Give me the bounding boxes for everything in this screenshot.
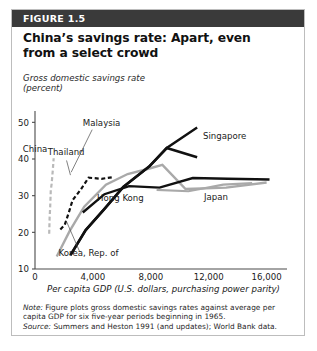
y-tick-label: 30 <box>18 191 29 201</box>
note-label: Note: <box>23 303 43 312</box>
y-tick-label: 20 <box>18 228 29 238</box>
source-label: Source: <box>23 322 51 331</box>
x-tick-label: 8,000 <box>139 272 164 282</box>
x-axis-caption: Per capita GDP (U.S. dollars, purchasing… <box>47 284 280 294</box>
note-text: Figure plots gross domestic savings rate… <box>23 303 275 321</box>
series-label-malaysia: Malaysia <box>83 118 121 128</box>
series-label-hong-kong: Hong Kong <box>97 193 144 203</box>
series-line-china <box>49 158 53 234</box>
line-chart-svg: ChinaThailandMalaysiaSingaporeHong KongJ… <box>12 10 306 310</box>
y-tick-label: 10 <box>18 264 29 274</box>
series-label-singapore: Singapore <box>203 131 246 141</box>
x-tick-label: 4,000 <box>81 272 106 282</box>
source-text: Summers and Heston 1991 (and updates); W… <box>51 322 277 331</box>
series-label-china: China <box>23 144 48 154</box>
y-tick-label: 40 <box>18 154 29 164</box>
figure-card: FIGURE 1.5 China’s savings rate: Apart, … <box>11 9 305 336</box>
source-line: Source: Summers and Heston 1991 (and upd… <box>23 322 295 331</box>
x-tick-label: 0 <box>32 272 37 282</box>
x-tick-label: 16,000 <box>252 272 282 282</box>
series-label-japan: Japan <box>203 192 228 202</box>
chart-tick-labels: 102030405004,0008,00012,00016,000Per cap… <box>18 118 282 294</box>
figure-note: Note: Figure plots gross domestic saving… <box>23 303 295 331</box>
note-line: Note: Figure plots gross domestic saving… <box>23 303 295 322</box>
series-label-korea-rep-of: Korea, Rep. of <box>59 248 120 258</box>
chart-plot-area: ChinaThailandMalaysiaSingaporeHong KongJ… <box>12 10 306 337</box>
x-tick-label: 12,000 <box>194 272 224 282</box>
y-tick-label: 50 <box>18 118 29 128</box>
leader-line-thailand <box>67 160 71 175</box>
